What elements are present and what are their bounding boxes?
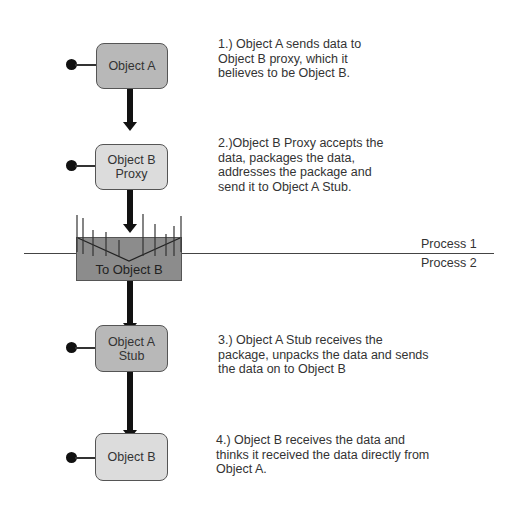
object-b-port-line — [75, 457, 96, 459]
object-a-stub-port-line — [75, 347, 96, 349]
step-2-note: 2.)Object B Proxy accepts the data, pack… — [218, 136, 383, 194]
process-2-label: Process 2 — [421, 256, 477, 270]
object-b-proxy-port-line — [75, 165, 96, 167]
object-a-port-line — [75, 64, 96, 66]
object-a-stub-node[interactable]: Object A Stub — [95, 325, 168, 372]
object-a-label: Object A — [108, 59, 155, 73]
step-4-note: 4.) Object B receives the data and think… — [216, 433, 429, 477]
object-b-proxy-node[interactable]: Object B Proxy — [95, 144, 168, 190]
channel-envelope-icon — [76, 212, 182, 262]
arrowhead-icon — [123, 122, 137, 131]
channel-label: To Object B — [77, 262, 181, 277]
object-b-label: Object B — [108, 450, 156, 464]
object-b-proxy-label: Object B Proxy — [108, 153, 156, 181]
step-3-note: 3.) Object A Stub receives the package, … — [218, 333, 429, 377]
object-b-node[interactable]: Object B — [95, 433, 168, 481]
object-a-stub-label: Object A Stub — [108, 335, 155, 363]
link-stub-to-object-b — [127, 372, 133, 432]
link-a-to-proxy — [127, 89, 133, 125]
step-1-note: 1.) Object A sends data to Object B prox… — [218, 37, 361, 81]
object-a-node[interactable]: Object A — [96, 43, 168, 89]
link-channel-to-stub — [127, 281, 133, 326]
process-1-label: Process 1 — [421, 237, 477, 251]
